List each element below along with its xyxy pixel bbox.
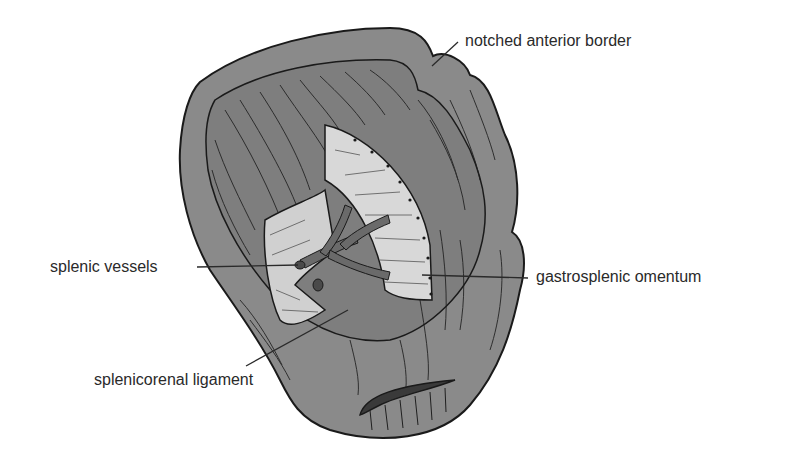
spleen-illustration — [0, 0, 786, 467]
label-splenicorenal-ligament: splenicorenal ligament — [94, 372, 253, 388]
label-gastrosplenic-omentum: gastrosplenic omentum — [536, 269, 701, 285]
label-splenic-vessels: splenic vessels — [50, 259, 158, 275]
label-notched-anterior-border: notched anterior border — [465, 33, 631, 49]
